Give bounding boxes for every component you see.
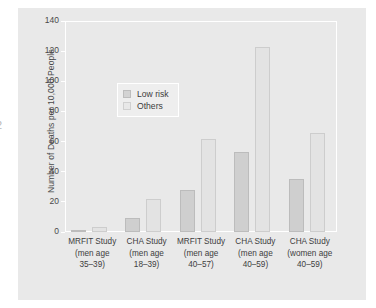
x-axis-label-line: (men age	[116, 248, 178, 260]
bar-group	[283, 21, 337, 232]
bar-others	[146, 199, 161, 232]
legend-label-low-risk: Low risk	[137, 89, 169, 99]
x-axis-label-line: 18–39)	[116, 259, 178, 271]
bar-group	[174, 21, 228, 232]
legend-swatch-others	[123, 102, 131, 110]
x-axis-label-line: 40–57)	[170, 259, 232, 271]
bar-others	[201, 139, 216, 232]
legend-item-low-risk: Low risk	[123, 88, 169, 100]
legend-swatch-low-risk	[123, 90, 131, 98]
plot-area: 020406080100120140 Low risk Others	[65, 21, 337, 232]
x-axis-label-line: 35–39)	[61, 259, 123, 271]
y-tick-label: 60	[50, 136, 59, 146]
x-axis-label-line: MRFIT Study	[61, 236, 123, 248]
x-axis-label-line: MRFIT Study	[170, 236, 232, 248]
x-axis-label-line: (men age	[61, 248, 123, 260]
y-tick-label: 20	[50, 196, 59, 206]
x-axis-label-line: 40–59)	[224, 259, 286, 271]
bar-low-risk	[71, 230, 86, 232]
y-tick-label: 120	[45, 45, 59, 55]
bar-others	[92, 227, 107, 232]
bar-group	[228, 21, 282, 232]
y-tick-label: 140	[45, 15, 59, 25]
x-axis-label: CHA Study(women age40–59)	[279, 236, 341, 271]
y-tick-label: 0	[54, 226, 59, 236]
y-tick-label: 100	[45, 75, 59, 85]
bar-group	[119, 21, 173, 232]
bar-series-container	[65, 21, 337, 232]
chart-panel: Number of Deaths per 10,000 People 02040…	[18, 8, 366, 300]
bar-low-risk	[125, 218, 140, 232]
x-axis-label-line: (men age	[224, 248, 286, 260]
x-axis-label-line: CHA Study	[279, 236, 341, 248]
x-axis-label: CHA Study(men age40–59)	[224, 236, 286, 271]
x-axis-label-line: CHA Study	[224, 236, 286, 248]
bar-chart-figure: 2 Number of Deaths per 10,000 People 020…	[0, 0, 376, 308]
bar-others	[255, 47, 270, 232]
x-axis-labels: MRFIT Study(men age35–39)CHA Study(men a…	[65, 236, 337, 296]
bar-others	[310, 133, 325, 232]
x-axis-label-line: CHA Study	[116, 236, 178, 248]
bar-group	[65, 21, 119, 232]
page-number-artifact: 2	[0, 118, 8, 132]
bar-low-risk	[234, 152, 249, 232]
x-axis-label: MRFIT Study(men age35–39)	[61, 236, 123, 271]
x-axis-label: MRFIT Study(men age40–57)	[170, 236, 232, 271]
bar-low-risk	[180, 190, 195, 232]
chart-legend: Low risk Others	[117, 83, 179, 117]
y-tick-label: 40	[50, 166, 59, 176]
x-axis-label-line: (women age	[279, 248, 341, 260]
legend-label-others: Others	[137, 101, 163, 111]
legend-item-others: Others	[123, 100, 169, 112]
y-tick-label: 80	[50, 105, 59, 115]
bar-low-risk	[289, 179, 304, 232]
x-axis-label: CHA Study(men age18–39)	[116, 236, 178, 271]
x-axis-label-line: (men age	[170, 248, 232, 260]
x-axis-label-line: 40–59)	[279, 259, 341, 271]
